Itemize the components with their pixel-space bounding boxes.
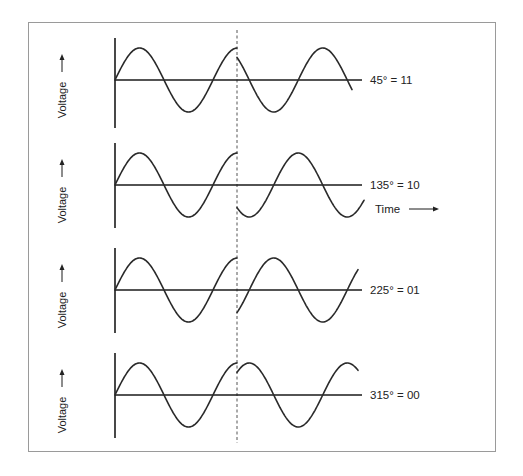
voltage-axis-label: Voltage [56,264,68,328]
waveform-panel-45deg: 45° = 11 Voltage [56,38,412,128]
waveform-panel-225deg: 225° = 01 Voltage [56,248,420,333]
phase-bit-label: 315° = 00 [370,389,420,401]
psk-waveform-diagram: 45° = 11 Voltage 135° = 10 Voltage 225° … [0,0,523,476]
voltage-label-text: Voltage [56,187,68,224]
phase-bit-label: 225° = 01 [370,284,420,296]
voltage-axis-label: Voltage [56,54,68,118]
voltage-label-text: Voltage [56,82,68,119]
time-axis-label: Time [375,203,439,215]
time-label-text: Time [375,203,400,215]
phase-bit-label: 135° = 10 [370,179,420,191]
arrow-head-icon [60,264,65,270]
waveform-panel-135deg: 135° = 10 Voltage [56,143,420,228]
waveform-panel-315deg: 315° = 00 Voltage [56,353,420,438]
phase-bit-label: 45° = 11 [370,74,412,86]
voltage-label-text: Voltage [56,292,68,329]
voltage-axis-label: Voltage [56,369,68,433]
arrow-head-icon [60,159,65,165]
arrow-head-icon [60,369,65,375]
arrow-head-icon [60,54,65,60]
voltage-label-text: Voltage [56,397,68,434]
arrow-head-icon [433,207,439,212]
voltage-axis-label: Voltage [56,159,68,223]
